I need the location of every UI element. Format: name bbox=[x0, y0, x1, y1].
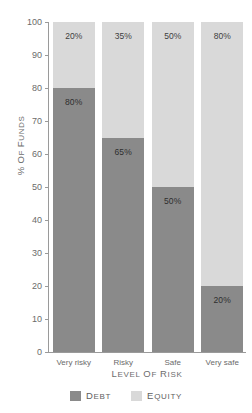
legend-swatch-debt bbox=[70, 391, 81, 401]
y-axis-tick-mark bbox=[45, 220, 48, 221]
legend-label-equity: EQUITY bbox=[147, 390, 182, 401]
y-axis-tick-label: 0 bbox=[4, 347, 42, 357]
x-axis-tick-label: Safe bbox=[152, 358, 194, 367]
y-axis-tick-mark bbox=[45, 55, 48, 56]
x-axis-line bbox=[48, 352, 246, 353]
bar-value-label-debt: 50% bbox=[164, 196, 182, 206]
y-axis-tick-label: 80 bbox=[4, 83, 42, 93]
y-axis-tick-mark bbox=[45, 319, 48, 320]
bar-group[interactable]: 20%80%Very risky bbox=[53, 22, 95, 352]
bar-value-label-equity: 35% bbox=[102, 31, 144, 41]
legend-swatch-equity bbox=[131, 391, 142, 401]
plot-area: 0102030405060708090100 20%80%Very risky3… bbox=[48, 22, 246, 352]
legend-item-equity: EQUITY bbox=[131, 390, 182, 401]
legend-item-debt: DEBT bbox=[70, 390, 111, 401]
y-axis-tick-label: 70 bbox=[4, 116, 42, 126]
y-axis-tick-mark bbox=[45, 187, 48, 188]
bar-value-label-debt: 80% bbox=[65, 97, 83, 107]
chart-legend: DEBT EQUITY bbox=[0, 390, 252, 401]
bar-value-label-equity: 80% bbox=[201, 31, 243, 41]
bar-segment-equity[interactable]: 20% bbox=[53, 22, 95, 88]
y-axis-tick-label: 100 bbox=[4, 17, 42, 27]
bar-value-label-equity: 50% bbox=[152, 31, 194, 41]
bar-segment-debt[interactable]: 65% bbox=[102, 138, 144, 353]
y-axis-tick-mark bbox=[45, 22, 48, 23]
bar-segment-debt[interactable]: 50% bbox=[152, 187, 194, 352]
y-axis-tick-label: 90 bbox=[4, 50, 42, 60]
y-axis-tick-mark bbox=[45, 253, 48, 254]
bar-group[interactable]: 35%65%Risky bbox=[102, 22, 144, 352]
y-axis-tick-mark bbox=[45, 286, 48, 287]
x-axis-title: LEVEL OF RISK bbox=[48, 368, 246, 379]
y-axis-tick-label: 60 bbox=[4, 149, 42, 159]
x-axis-tick-label: Very safe bbox=[201, 358, 243, 367]
legend-label-debt: DEBT bbox=[86, 390, 111, 401]
x-axis-tick-label: Risky bbox=[102, 358, 144, 367]
stacked-bar-chart: % OF FUNDS 0102030405060708090100 20%80%… bbox=[0, 0, 252, 413]
bar-segment-debt[interactable]: 80% bbox=[53, 88, 95, 352]
bar-group[interactable]: 50%50%Safe bbox=[152, 22, 194, 352]
y-axis-line bbox=[48, 22, 49, 352]
bar-group[interactable]: 80%20%Very safe bbox=[201, 22, 243, 352]
y-axis-tick-mark bbox=[45, 121, 48, 122]
y-axis-tick-mark bbox=[45, 154, 48, 155]
bar-segment-equity[interactable]: 35% bbox=[102, 22, 144, 138]
y-axis-tick-label: 50 bbox=[4, 182, 42, 192]
y-axis-tick-mark bbox=[45, 88, 48, 89]
y-axis-tick-label: 40 bbox=[4, 215, 42, 225]
x-axis-title-text: LEVEL OF RISK bbox=[111, 370, 182, 379]
bar-value-label-debt: 65% bbox=[114, 147, 132, 157]
bar-segment-equity[interactable]: 80% bbox=[201, 22, 243, 286]
x-axis-tick-label: Very risky bbox=[53, 358, 95, 367]
y-axis-tick-label: 10 bbox=[4, 314, 42, 324]
bar-segment-equity[interactable]: 50% bbox=[152, 22, 194, 187]
y-axis-tick-label: 20 bbox=[4, 281, 42, 291]
bar-segment-debt[interactable]: 20% bbox=[201, 286, 243, 352]
bar-value-label-equity: 20% bbox=[53, 31, 95, 41]
y-axis-tick-label: 30 bbox=[4, 248, 42, 258]
bar-value-label-debt: 20% bbox=[213, 295, 231, 305]
y-axis-tick-mark bbox=[45, 352, 48, 353]
